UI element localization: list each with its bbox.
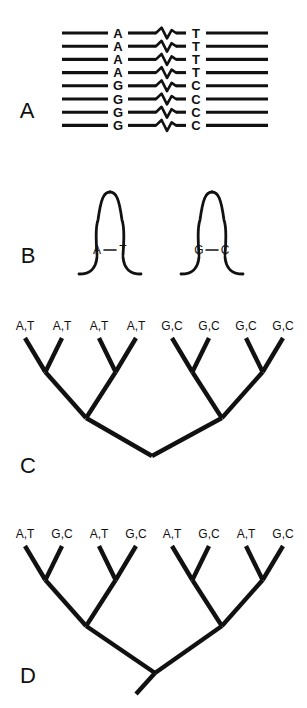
tip-label: A,T (237, 527, 256, 541)
tree-branch-tip (116, 338, 136, 372)
sequence-base-left: G (113, 118, 123, 133)
tree-branch-internal (86, 580, 116, 626)
sequence-break-squiggle (156, 54, 176, 65)
tree-branch-tip (246, 546, 263, 580)
tip-label: A,T (127, 319, 146, 333)
tip-label: G,C (272, 527, 294, 541)
tree-branch-tip (116, 546, 136, 580)
sequence-row: GC (62, 118, 268, 133)
hairpin-at: AT (79, 192, 141, 274)
hairpin-tail-left (79, 257, 97, 274)
tree-branch-internal (222, 372, 263, 418)
sequence-row: GC (62, 105, 268, 120)
panel-c-letter: C (20, 453, 36, 478)
sequence-base-right: C (191, 118, 201, 133)
tree-branch-tip (192, 338, 209, 372)
figure-container: A ATATATATGCGCGCGC B ATGC C A,TA,TA,TA,T… (0, 0, 307, 708)
hairpin-tail-right (123, 257, 141, 274)
panel-c-tip-labels: A,TA,TA,TA,TG,CG,CG,CG,C (16, 319, 294, 333)
tree-branch-root-left (86, 418, 152, 456)
tree-branch-tip (45, 546, 62, 580)
panel-d: D A,TG,CA,TG,CA,TG,CA,TG,C (16, 527, 294, 694)
tree-branch-tip (263, 546, 283, 580)
sequence-break-squiggle (156, 41, 176, 52)
panel-d-letter: D (20, 663, 36, 688)
panel-b: B ATGC (21, 192, 243, 274)
tip-label: A,T (90, 319, 109, 333)
tip-label: A,T (16, 319, 35, 333)
hairpin-tail-left (181, 257, 199, 274)
tree-branch-tip (99, 546, 116, 580)
panel-b-hairpins: ATGC (79, 192, 243, 274)
sequence-row: AT (62, 52, 268, 67)
panel-a-sequence-rows: ATATATATGCGCGCGC (62, 26, 268, 133)
tip-label: G,C (51, 527, 73, 541)
tip-label: G,C (198, 319, 220, 333)
tip-label: A,T (16, 527, 35, 541)
tip-label: G,C (198, 527, 220, 541)
tree-branch-tip (25, 546, 45, 580)
sequence-break-squiggle (156, 28, 176, 39)
sequence-break-squiggle (156, 120, 176, 131)
tree-branch-root-right (155, 626, 222, 673)
tip-label: G,C (272, 319, 294, 333)
tip-label: A,T (163, 527, 182, 541)
hairpin-gc: GC (181, 192, 243, 274)
tree-branch-tip (263, 338, 283, 372)
base-pair-right: T (119, 243, 127, 257)
tree-branch-tip (25, 338, 45, 372)
base-pair-left: A (93, 243, 101, 257)
sequence-row: AT (62, 39, 268, 54)
panel-d-tree (25, 546, 283, 694)
sequence-break-squiggle (156, 80, 176, 91)
tree-branch-root-left (86, 626, 155, 673)
tree-branch-internal (192, 372, 222, 418)
tree-branch-tip (99, 338, 116, 372)
tree-branch-tip (45, 338, 62, 372)
tree-root-stem (136, 673, 155, 694)
tip-label: G,C (125, 527, 147, 541)
tree-branch-internal (192, 580, 222, 626)
hairpin-tail-right (225, 257, 243, 274)
figure-canvas: A ATATATATGCGCGCGC B ATGC C A,TA,TA,TA,T… (0, 0, 307, 708)
tree-branch-tip (172, 546, 192, 580)
panel-a-letter: A (20, 98, 35, 123)
tree-branch-root-right (152, 418, 222, 456)
panel-c: C A,TA,TA,TA,TG,CG,CG,CG,C (16, 319, 294, 478)
sequence-row: GC (62, 92, 268, 107)
panel-c-tree (25, 338, 283, 456)
tip-label: A,T (90, 527, 109, 541)
tip-label: G,C (235, 319, 257, 333)
tree-branch-tip (172, 338, 192, 372)
sequence-row: AT (62, 26, 268, 41)
tree-branch-tip (192, 546, 209, 580)
tip-label: A,T (53, 319, 72, 333)
tree-branch-tip (246, 338, 263, 372)
panel-b-letter: B (21, 243, 36, 268)
tree-branch-internal (45, 372, 86, 418)
sequence-break-squiggle (156, 107, 176, 118)
tree-branch-internal (86, 372, 116, 418)
sequence-break-squiggle (156, 67, 176, 78)
tree-branch-internal (222, 580, 263, 626)
sequence-row: GC (62, 78, 268, 93)
tip-label: G,C (161, 319, 183, 333)
panel-d-tip-labels: A,TG,CA,TG,CA,TG,CA,TG,C (16, 527, 294, 541)
base-pair-right: C (221, 243, 230, 257)
sequence-break-squiggle (156, 94, 176, 105)
panel-a: A ATATATATGCGCGCGC (20, 26, 268, 133)
tree-branch-internal (45, 580, 86, 626)
sequence-row: AT (62, 65, 268, 80)
base-pair-left: G (194, 243, 203, 257)
